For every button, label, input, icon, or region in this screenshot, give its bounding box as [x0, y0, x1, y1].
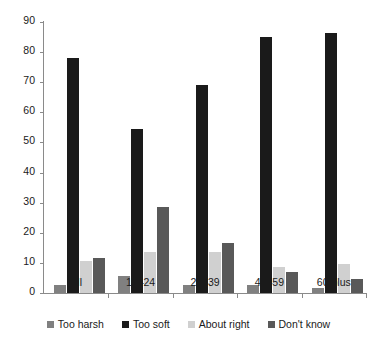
bar-group [302, 22, 366, 293]
x-axis-divider [302, 293, 303, 298]
y-axis-tick-label: 60 [23, 105, 35, 116]
bar-group [173, 22, 237, 293]
y-axis-tick-label: 50 [23, 135, 35, 146]
y-axis-tick-label: 70 [23, 75, 35, 86]
y-axis-tick-label: 0 [29, 286, 35, 297]
x-axis-category-label: All [44, 276, 108, 288]
y-axis-tick-label: 30 [23, 196, 35, 207]
y-axis-tick-label: 20 [23, 226, 35, 237]
bar [131, 129, 143, 293]
bar-group-bars [302, 22, 376, 293]
legend-label: Don't know [279, 318, 331, 330]
legend-label: About right [199, 318, 250, 330]
legend-item: About right [188, 318, 250, 330]
legend-swatch-icon [122, 321, 129, 328]
legend-swatch-icon [188, 321, 195, 328]
bar [312, 288, 324, 293]
legend-swatch-icon [47, 321, 54, 328]
bar-group-bars [108, 22, 182, 293]
x-axis-divider [173, 293, 174, 298]
legend-item: Don't know [268, 318, 331, 330]
y-axis-tick-label: 10 [23, 256, 35, 267]
bar-group-bars [237, 22, 311, 293]
bar-group [44, 22, 108, 293]
x-axis-category-label: 40–59 [237, 276, 301, 288]
y-axis-tick-label: 40 [23, 166, 35, 177]
legend-swatch-icon [268, 321, 275, 328]
x-axis-category-label: 60 plus [302, 276, 366, 288]
bar-group [237, 22, 301, 293]
chart-legend: Too harshToo softAbout rightDon't know [0, 318, 377, 330]
bar-group [108, 22, 172, 293]
legend-label: Too soft [133, 318, 170, 330]
bar [325, 33, 337, 293]
x-axis-line [43, 293, 366, 294]
plot-area [44, 22, 366, 293]
bar [196, 85, 208, 293]
bar [260, 37, 272, 293]
bar [67, 58, 79, 293]
x-axis-category-label: 18–24 [108, 276, 172, 288]
legend-item: Too harsh [47, 318, 104, 330]
y-axis-tick-label: 90 [23, 15, 35, 26]
legend-item: Too soft [122, 318, 170, 330]
x-axis-divider [366, 293, 367, 298]
x-axis-category-label: 25–39 [173, 276, 237, 288]
bar-chart: 0102030405060708090 All18–2425–3940–5960… [0, 0, 377, 347]
x-axis-divider [237, 293, 238, 298]
x-axis-divider [108, 293, 109, 298]
bar-group-bars [173, 22, 247, 293]
bar-group-bars [44, 22, 118, 293]
legend-label: Too harsh [58, 318, 104, 330]
y-axis-tick-label: 80 [23, 45, 35, 56]
